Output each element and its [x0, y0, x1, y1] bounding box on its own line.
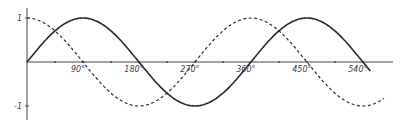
x-tick	[166, 61, 168, 63]
x-tick	[110, 61, 112, 63]
x-tick	[54, 61, 56, 63]
x-tick	[306, 61, 308, 63]
x-tick-label: 90°	[71, 65, 85, 74]
x-tick-label: 270°	[180, 65, 199, 74]
x-tick-label: 540°	[348, 65, 367, 74]
x-tick-label: 180°	[124, 65, 143, 74]
x-tick	[334, 61, 336, 63]
x-tick	[222, 61, 224, 63]
y-tick-label: -1	[14, 102, 22, 111]
x-tick-label: 360°	[236, 65, 255, 74]
sine-cosine-chart: 90°180°270°360°450°540°1-1	[0, 0, 402, 126]
x-tick-label: 450°	[292, 65, 311, 74]
x-tick	[278, 61, 280, 63]
y-tick-label: 1	[17, 14, 22, 23]
